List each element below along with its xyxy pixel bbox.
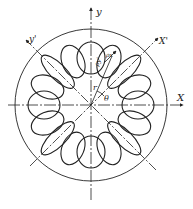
x-axis-label: X [176, 92, 185, 103]
angle-label: θ [104, 94, 109, 103]
y-axis-label: y [95, 6, 102, 17]
rho-x-label: ρx' [105, 51, 115, 59]
y-prime-axis-label: y' [28, 34, 37, 44]
x-prime-axis-label: X' [158, 36, 168, 46]
ellipse-ring-diagram: y X X' y' r θ ρx' ρy' [0, 0, 193, 209]
rho-y-label: ρy' [92, 56, 103, 68]
x-prime-axis [30, 38, 158, 166]
